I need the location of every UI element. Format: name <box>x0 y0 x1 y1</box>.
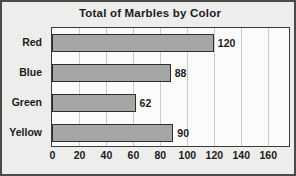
x-tick-140: 140 <box>233 149 251 161</box>
x-tick-20: 20 <box>74 149 86 161</box>
category-label-yellow: Yellow <box>0 126 42 138</box>
x-tick-160: 160 <box>260 149 278 161</box>
category-label-green: Green <box>0 96 42 108</box>
x-tick-0: 0 <box>50 149 56 161</box>
chart-screenshot: Total of Marbles by Color 120886290 RedB… <box>0 0 296 176</box>
bar-green <box>52 94 136 112</box>
bar-row: 88 <box>52 64 186 82</box>
bar-value-label: 120 <box>218 38 236 49</box>
category-label-blue: Blue <box>0 66 42 78</box>
bar-row: 62 <box>52 94 151 112</box>
x-tick-60: 60 <box>128 149 140 161</box>
gridline-140 <box>241 28 242 146</box>
bar-value-label: 62 <box>140 98 152 109</box>
category-label-red: Red <box>0 36 42 48</box>
x-tick-120: 120 <box>206 149 224 161</box>
bar-red <box>52 34 214 52</box>
chart-title: Total of Marbles by Color <box>2 7 296 19</box>
x-tick-80: 80 <box>155 149 167 161</box>
bar-value-label: 90 <box>177 128 189 139</box>
x-tick-100: 100 <box>179 149 197 161</box>
bar-row: 90 <box>52 124 189 142</box>
bar-blue <box>52 64 171 82</box>
bar-row: 120 <box>52 34 235 52</box>
gridline-160 <box>268 28 269 146</box>
plot-area: 120886290 <box>51 27 290 147</box>
bar-value-label: 88 <box>175 68 187 79</box>
bar-yellow <box>52 124 173 142</box>
x-tick-40: 40 <box>101 149 113 161</box>
